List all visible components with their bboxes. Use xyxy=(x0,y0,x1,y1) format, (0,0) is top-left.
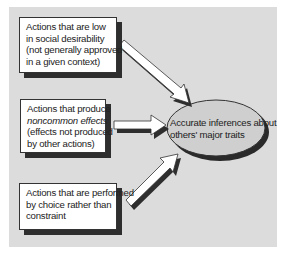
box-text-line: Actions that are performed xyxy=(26,187,111,199)
box-text-line: (not generally approved xyxy=(26,44,111,56)
outcome-text-line: Accurate inferences about xyxy=(170,117,266,129)
box-text-line-italic: noncommon effects xyxy=(27,115,100,127)
box-text-line: constraint xyxy=(26,210,111,222)
arrow-2-icon xyxy=(114,115,169,139)
input-box-low-social-desirability: Actions that are low in social desirabil… xyxy=(19,17,117,73)
italic-term: noncommon effects xyxy=(27,115,107,126)
outcome-text-line: others' major traits xyxy=(170,129,266,141)
box-text-line: in social desirability xyxy=(26,33,111,45)
box-text-line: Actions that are low xyxy=(26,21,111,33)
box-text-line: in a given context) xyxy=(26,56,111,68)
box-text-line: (effects not produced xyxy=(27,126,100,138)
box-text-line: Actions that produce xyxy=(27,103,100,115)
box-text-line: by other actions) xyxy=(27,138,100,150)
box-text-line: by choice rather than xyxy=(26,199,111,211)
arrow-3-icon xyxy=(126,154,181,210)
arrow-1-icon xyxy=(119,40,192,107)
input-box-noncommon-effects: Actions that produce noncommon effects (… xyxy=(20,99,106,153)
outcome-label: Accurate inferences about others' major … xyxy=(170,117,266,140)
input-box-choice-not-constraint: Actions that are performed by choice rat… xyxy=(19,183,117,230)
